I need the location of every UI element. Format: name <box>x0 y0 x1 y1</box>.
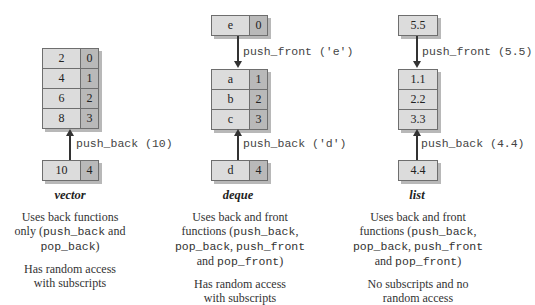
deque-front-row: e0 <box>212 16 267 35</box>
code: pop_back <box>353 240 408 253</box>
deque-push-front-label: push_front ('e') <box>243 45 353 58</box>
deque-desc-line: with subscripts <box>168 291 312 305</box>
vector-index: 1 <box>80 69 98 88</box>
vector-value: 8 <box>43 109 80 128</box>
code: push_back <box>411 225 473 238</box>
vector-desc-line: Uses back functions <box>0 210 140 224</box>
text: , <box>473 224 476 238</box>
deque-value: b <box>212 90 249 109</box>
vector-desc-line: only (push_back and <box>0 224 140 239</box>
deque-description: Uses back and front functions (push_back… <box>168 210 312 305</box>
list-push-front-label: push_front (5.5) <box>422 45 532 58</box>
list-row: 3.3 <box>399 110 437 129</box>
text: and <box>375 254 395 268</box>
list-front-value: 5.5 <box>399 16 437 35</box>
list-front-box: 5.5 <box>398 15 438 36</box>
text: ) <box>457 254 461 268</box>
list-value: 3.3 <box>399 110 437 129</box>
deque-row: c3 <box>212 110 267 129</box>
deque-desc-line: Uses back and front <box>168 210 312 224</box>
vector-push-back-label: push_back (10) <box>76 137 173 150</box>
text: only ( <box>15 224 43 238</box>
vector-row: 62 <box>43 89 98 109</box>
deque-value: a <box>212 70 249 89</box>
list-desc-line: functions (push_back, <box>346 224 490 239</box>
push-back-arrow-icon <box>237 135 239 160</box>
vector-index: 3 <box>80 109 98 128</box>
vector-description: Uses back functions only (push_back and … <box>0 210 140 290</box>
deque-front-index: 0 <box>249 16 267 35</box>
list-title: list <box>387 188 447 203</box>
vector-elements-box: 20 41 62 83 <box>42 48 99 129</box>
deque-row: a1 <box>212 70 267 90</box>
deque-row: b2 <box>212 90 267 110</box>
deque-index: 3 <box>249 110 267 129</box>
vector-index: 2 <box>80 89 98 108</box>
vector-row: 41 <box>43 69 98 89</box>
vector-back-index: 4 <box>80 161 98 180</box>
text: functions ( <box>360 224 412 238</box>
text: and <box>105 224 125 238</box>
vector-row: 20 <box>43 49 98 69</box>
vector-desc-line: pop_back) <box>0 239 140 254</box>
code: push_back <box>43 225 105 238</box>
push-front-arrow-icon <box>237 36 239 62</box>
list-back-row: 4.4 <box>399 161 437 180</box>
deque-back-row: d4 <box>212 161 267 180</box>
code: pop_back <box>40 240 95 253</box>
list-back-box: 4.4 <box>398 160 438 181</box>
push-back-arrow-icon <box>416 135 418 160</box>
text: , <box>295 224 298 238</box>
vector-back-row: 104 <box>43 161 98 180</box>
text: ) <box>96 239 100 253</box>
code: push_front <box>236 240 305 253</box>
deque-front-box: e0 <box>211 15 268 36</box>
vector-value: 6 <box>43 89 80 108</box>
code: push_front <box>414 240 483 253</box>
deque-back-index: 4 <box>249 161 267 180</box>
deque-index: 2 <box>249 90 267 109</box>
text: ) <box>279 254 283 268</box>
text: and <box>197 254 217 268</box>
list-value: 2.2 <box>399 90 437 109</box>
code: push_back <box>233 225 295 238</box>
list-desc-line: and pop_front) <box>346 254 490 269</box>
deque-desc-line: Has random access <box>168 277 312 291</box>
deque-title: deque <box>208 188 268 203</box>
deque-elements-box: a1 b2 c3 <box>211 69 268 130</box>
deque-push-back-label: push_back ('d') <box>243 137 347 150</box>
vector-index: 0 <box>80 49 98 68</box>
list-front-row: 5.5 <box>399 16 437 35</box>
push-back-arrow-icon <box>69 135 71 160</box>
vector-back-box: 104 <box>42 160 99 181</box>
list-push-back-label: push_back (4.4) <box>421 137 525 150</box>
code: pop_back <box>175 240 230 253</box>
code: pop_front <box>395 255 457 268</box>
deque-desc-line: and pop_front) <box>168 254 312 269</box>
deque-back-value: d <box>212 161 249 180</box>
list-desc-line: pop_back, push_front <box>346 239 490 254</box>
vector-title: vector <box>40 188 100 203</box>
vector-value: 4 <box>43 69 80 88</box>
list-desc-line: No subscripts and no <box>346 277 490 291</box>
deque-value: c <box>212 110 249 129</box>
vector-row: 83 <box>43 109 98 128</box>
deque-index: 1 <box>249 70 267 89</box>
list-desc-line: Uses back and front <box>346 210 490 224</box>
deque-desc-line: pop_back, push_front <box>168 239 312 254</box>
code: pop_front <box>217 255 279 268</box>
list-description: Uses back and front functions (push_back… <box>346 210 490 305</box>
deque-front-value: e <box>212 16 249 35</box>
list-elements-box: 1.1 2.2 3.3 <box>398 69 438 130</box>
text: functions ( <box>182 224 234 238</box>
list-desc-line: random access <box>346 291 490 305</box>
vector-back-value: 10 <box>43 161 80 180</box>
vector-value: 2 <box>43 49 80 68</box>
list-row: 2.2 <box>399 90 437 110</box>
list-row: 1.1 <box>399 70 437 90</box>
push-front-arrow-icon <box>416 36 418 62</box>
list-back-value: 4.4 <box>399 161 437 180</box>
deque-back-box: d4 <box>211 160 268 181</box>
vector-desc-line: Has random access <box>0 262 140 276</box>
list-value: 1.1 <box>399 70 437 89</box>
